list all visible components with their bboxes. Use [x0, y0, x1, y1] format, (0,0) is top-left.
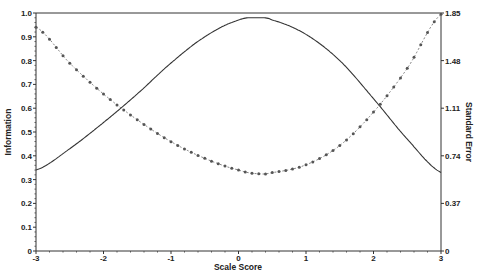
se-marker — [440, 13, 443, 16]
y2-tick-label: 1.85 — [445, 9, 461, 18]
x-tick-label: -1 — [167, 254, 175, 263]
se-marker — [392, 86, 395, 89]
se-marker — [386, 94, 389, 97]
se-marker — [311, 160, 314, 163]
se-marker — [183, 147, 186, 150]
se-marker — [217, 162, 220, 165]
y-tick-label: 0.1 — [21, 223, 33, 232]
y-tick-label: 1.0 — [21, 9, 33, 18]
y-tick-label: 0.9 — [21, 33, 33, 42]
y-tick-label: 0.8 — [21, 57, 33, 66]
se-marker — [332, 149, 335, 152]
se-marker — [163, 136, 166, 139]
se-marker — [203, 157, 206, 160]
x-tick-label: -3 — [32, 254, 40, 263]
y2-tick-label: 1.11 — [445, 104, 461, 113]
se-marker — [284, 169, 287, 172]
x-tick-label: 2 — [371, 254, 376, 263]
x-axis-title: Scale Score — [214, 262, 262, 272]
se-marker — [426, 31, 429, 34]
se-marker — [68, 62, 71, 65]
se-marker — [338, 144, 341, 147]
se-marker — [352, 132, 355, 135]
y-tick-label: 0.2 — [21, 199, 33, 208]
se-marker — [278, 170, 281, 173]
se-marker — [176, 144, 179, 147]
se-marker — [365, 118, 368, 121]
y-tick-label: 0.3 — [21, 176, 33, 185]
se-marker — [359, 125, 362, 128]
se-marker — [62, 54, 65, 57]
se-marker — [82, 75, 85, 78]
se-marker — [109, 98, 112, 101]
se-marker — [271, 171, 274, 174]
y2-tick-label: 0 — [445, 247, 450, 256]
se-marker — [102, 93, 105, 96]
se-marker — [399, 76, 402, 79]
se-marker — [264, 172, 267, 175]
se-marker — [318, 157, 321, 160]
se-marker — [433, 20, 436, 23]
y-tick-label: 0.5 — [21, 128, 33, 137]
se-marker — [244, 171, 247, 174]
se-marker — [143, 123, 146, 126]
se-marker — [230, 167, 233, 170]
y2-axis-title: Standard Error — [464, 102, 474, 163]
y2-tick-label: 0.74 — [445, 152, 461, 161]
x-tick-label: 1 — [304, 254, 309, 263]
se-marker — [48, 38, 51, 41]
y2-tick-label: 1.48 — [445, 57, 461, 66]
se-marker — [95, 87, 98, 90]
se-marker — [224, 165, 227, 168]
se-marker — [379, 103, 382, 106]
y-tick-label: 0.7 — [21, 80, 33, 89]
se-marker — [257, 172, 260, 175]
se-marker — [372, 111, 375, 114]
x-tick-label: 3 — [439, 254, 444, 263]
se-marker — [190, 151, 193, 154]
se-marker — [237, 168, 240, 171]
se-marker — [197, 154, 200, 157]
se-marker — [136, 118, 139, 121]
plot-series — [35, 13, 443, 176]
se-marker — [35, 26, 38, 29]
se-marker — [122, 109, 125, 112]
se-marker — [55, 46, 58, 49]
se-marker — [305, 163, 308, 166]
se-marker — [251, 172, 254, 175]
se-marker — [129, 113, 132, 116]
information-curve — [36, 18, 441, 173]
standard-error-curve — [36, 14, 441, 174]
se-marker — [345, 138, 348, 141]
se-marker — [149, 128, 152, 131]
se-marker — [156, 132, 159, 135]
se-marker — [413, 56, 416, 59]
se-marker — [116, 103, 119, 106]
se-marker — [89, 81, 92, 84]
y-tick-label: 0.6 — [21, 104, 33, 113]
se-marker — [170, 140, 173, 143]
se-marker — [298, 166, 301, 169]
se-marker — [419, 43, 422, 46]
y-tick-label: 0.4 — [21, 152, 33, 161]
se-marker — [291, 168, 294, 171]
se-marker — [406, 67, 409, 70]
y2-tick-label: 0.37 — [445, 199, 461, 208]
x-tick-label: -2 — [100, 254, 108, 263]
se-marker — [41, 31, 44, 34]
se-marker — [75, 68, 78, 71]
information-se-chart: 00.10.20.30.40.50.60.70.80.91.000.370.74… — [0, 0, 477, 280]
se-marker — [325, 153, 328, 156]
y-axis-title: Information — [3, 109, 13, 156]
se-marker — [210, 160, 213, 163]
